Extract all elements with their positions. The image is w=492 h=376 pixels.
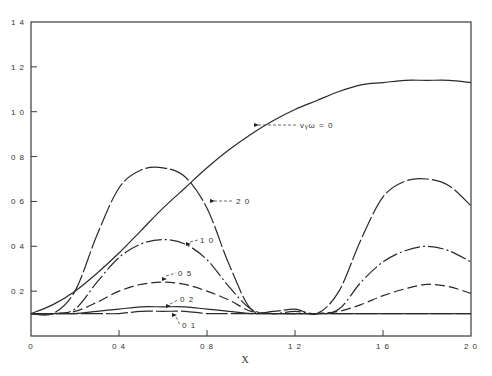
curve-label: 0 5 [178, 269, 192, 278]
y-tick-label: 0 8 [11, 153, 25, 162]
label-arrow-icon [162, 277, 167, 281]
curve-label: 0 1 [182, 321, 196, 330]
label-arrow-icon [166, 304, 171, 308]
curve-v_yω = 0 [31, 80, 471, 313]
y-tick-label: 1 4 [11, 18, 25, 27]
y-tick-label: 0 2 [11, 287, 25, 296]
x-tick-label: 0 [28, 342, 33, 351]
y-tick-label: 1 0 [11, 108, 25, 117]
y-tick-label: 1 2 [11, 63, 25, 72]
label-leader-line [176, 317, 180, 325]
curves [31, 80, 471, 315]
x-axis-title: X [241, 354, 249, 365]
curve-label: vᵧω = 0 [300, 121, 333, 130]
y-tick-label: 0 6 [11, 197, 25, 206]
label-leader-line [190, 240, 198, 242]
curve-0.2 [31, 307, 471, 314]
x-tick-label: 1 6 [376, 342, 390, 351]
x-tick-label: 0 8 [200, 342, 214, 351]
axis-tick-labels: 00 40 81 21 62 00 20 40 60 81 01 21 4 [11, 18, 478, 351]
label-arrow-icon [254, 123, 259, 127]
label-leader-line [170, 300, 178, 304]
curve-labels: vᵧω = 02 01 00 50 20 1 [162, 121, 333, 330]
label-arrow-icon [210, 199, 215, 203]
curve-label: 1 0 [200, 236, 214, 245]
x-tick-label: 0 4 [112, 342, 126, 351]
plot-frame [31, 22, 471, 336]
label-arrow-icon [172, 313, 177, 317]
line-chart: 00 40 81 21 62 00 20 40 60 81 01 21 4 vᵧ… [0, 0, 492, 376]
x-tick-label: 1 2 [288, 342, 302, 351]
y-tick-label: 0 4 [11, 242, 25, 251]
curve-1.0 [31, 240, 471, 314]
curve-label: 2 0 [236, 197, 250, 206]
curve-label: 0 2 [180, 295, 194, 304]
axis-ticks [31, 67, 383, 336]
label-leader-line [166, 273, 176, 276]
x-tick-label: 2 0 [464, 342, 478, 351]
curve-2.0 [31, 167, 471, 315]
